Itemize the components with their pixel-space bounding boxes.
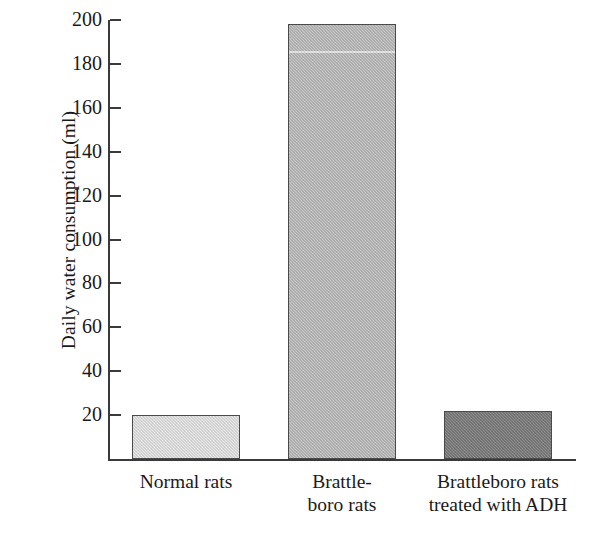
y-axis-tick-label: 160	[72, 97, 102, 117]
y-axis-tick	[110, 239, 121, 241]
bar-chart-figure: Daily water consumption (ml) 20406080100…	[0, 0, 605, 542]
y-axis-tick-label: 200	[72, 9, 102, 29]
x-axis-tick-labels: Normal ratsBrattle-boro ratsBrattleboro …	[108, 470, 576, 536]
x-axis-tick-label-line: Brattleboro rats	[403, 470, 593, 493]
y-axis-tick-label: 60	[82, 316, 102, 336]
bar-2	[288, 24, 396, 459]
y-axis-tick	[110, 414, 121, 416]
y-axis-tick-label: 80	[82, 272, 102, 292]
x-axis-spine	[108, 459, 576, 461]
y-axis-tick-label: 140	[72, 141, 102, 161]
y-axis-tick	[110, 19, 121, 21]
bar-3	[444, 411, 552, 459]
y-axis-tick	[110, 63, 121, 65]
x-axis-tick-label: Brattleboro ratstreated with ADH	[403, 470, 593, 516]
y-axis-tick	[110, 326, 121, 328]
plot-area: 20406080100120140160180200	[108, 20, 576, 460]
y-axis-tick	[110, 370, 121, 372]
y-axis-tick-label: 100	[72, 229, 102, 249]
y-axis-tick	[110, 107, 121, 109]
bar-1	[132, 415, 240, 459]
y-axis-tick	[110, 151, 121, 153]
y-axis-tick-label: 40	[82, 360, 102, 380]
x-axis-tick-label-line: treated with ADH	[403, 493, 593, 516]
y-axis-tick-label: 120	[72, 185, 102, 205]
y-axis-tick	[110, 282, 121, 284]
y-axis-tick	[110, 195, 121, 197]
y-axis-tick-label: 20	[82, 404, 102, 424]
bar-texture-seam	[289, 51, 395, 53]
y-axis-spine	[108, 20, 110, 461]
y-axis-tick-label: 180	[72, 53, 102, 73]
y-axis-tick-labels: 20406080100120140160180200	[22, 20, 102, 461]
